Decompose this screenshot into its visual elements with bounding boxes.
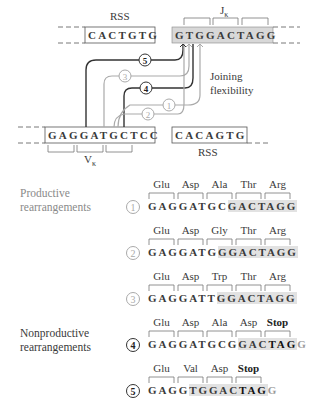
rearrangement-row-3: Glu Asp Trp Thr Arg 3 GAGGATTGGACTAGG <box>126 270 325 314</box>
rearranged-sequence: GAGGTGGACTAGG <box>148 384 278 396</box>
rearranged-sequence: GAGGATGCGGACTAGG <box>148 338 308 350</box>
svg-text:2: 2 <box>146 110 151 120</box>
codon-brackets <box>148 330 298 338</box>
j-segment-label: Jκ <box>220 4 228 19</box>
rearrangement-row-4: Glu Asp Ala Asp Stop 4 GAGGATGCGGACTAGG <box>126 316 325 360</box>
j-segment-sequence: GTGGACTAGG <box>175 29 277 41</box>
path-number-1: 1 <box>126 200 140 214</box>
v-segment-sequence: GAGGATGCTCC <box>48 129 160 141</box>
stop-codon-label: Stop <box>264 316 291 328</box>
rearrangement-row-2: Glu Asp Gly Thr Arg 2 GAGGATGGGACTAGG <box>126 224 325 268</box>
codon-brackets <box>148 284 298 292</box>
stop-codon-label: Stop <box>235 362 262 374</box>
path-number-2: 2 <box>126 246 140 260</box>
rearranged-sequence: GAGGATGGGACTAGG <box>148 246 298 258</box>
joining-flexibility-label: Joining flexibility <box>210 69 253 97</box>
rearranged-sequence: GAGGATGCGACTAGG <box>148 200 297 212</box>
svg-text:4: 4 <box>144 84 149 94</box>
path-number-3: 3 <box>126 292 140 306</box>
svg-text:5: 5 <box>143 56 148 66</box>
codon-brackets <box>148 376 298 384</box>
stop-codon-sequence: TAG <box>239 384 268 396</box>
rearrangement-row-1: Glu Asp Ala Thr Arg 1 GAGGATGCGACTAGG <box>126 178 325 222</box>
rss-right-label: RSS <box>198 146 218 158</box>
stop-codon-sequence: TAG <box>268 338 297 350</box>
joining-paths-diagram: 5 3 4 1 2 <box>0 0 325 170</box>
rss-right-sequence: CACAGTG <box>175 129 247 141</box>
codon-brackets <box>148 192 298 200</box>
rearranged-sequence: GAGGATTGGACTAGG <box>148 292 297 304</box>
productive-heading: Productive rearrangements <box>20 186 91 214</box>
svg-text:1: 1 <box>167 101 172 111</box>
svg-text:3: 3 <box>123 72 128 82</box>
path-number-5: 5 <box>126 384 140 398</box>
nonproductive-heading: Nonproductive rearrangements <box>20 326 91 354</box>
rearrangement-row-5: Glu Val Asp Stop 5 GAGGTGGACTAGG <box>126 362 325 406</box>
v-segment-label: Vκ <box>84 153 96 168</box>
rss-left-sequence: CACTGTG <box>88 29 159 41</box>
rss-left-label: RSS <box>110 10 130 22</box>
path-number-4: 4 <box>126 338 140 352</box>
codon-brackets <box>148 238 298 246</box>
